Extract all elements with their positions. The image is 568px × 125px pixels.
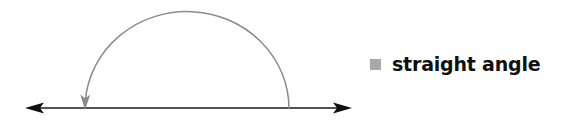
legend: straight angle	[370, 55, 540, 73]
arc-group	[80, 12, 289, 110]
baseline-group	[25, 103, 352, 114]
legend-label: straight angle	[392, 55, 540, 74]
angle-arc	[85, 12, 289, 108]
legend-swatch-icon	[370, 59, 381, 70]
straight-angle-figure: straight angle	[0, 0, 568, 125]
